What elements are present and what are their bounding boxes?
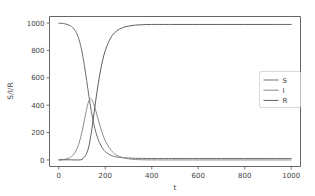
x-tick-label-600: 600 — [192, 172, 205, 180]
y-tick-label-800: 800 — [31, 47, 44, 55]
series-line-S — [59, 23, 291, 158]
y-axis-title: S/I/R — [6, 82, 15, 99]
legend-label-S: S — [283, 77, 288, 85]
y-tick-label-400: 400 — [31, 102, 44, 110]
chart-figure: 02004006008001000 02004006008001000 t S/… — [0, 0, 315, 196]
y-tick-label-600: 600 — [31, 74, 44, 82]
data-series-group — [59, 23, 291, 160]
x-tick-label-1000: 1000 — [282, 172, 300, 180]
x-axis-tick-labels: 02004006008001000 — [57, 172, 301, 180]
y-tick-label-1000: 1000 — [27, 20, 45, 28]
x-tick-label-400: 400 — [145, 172, 158, 180]
y-tick-label-0: 0 — [40, 157, 44, 165]
series-line-R — [59, 24, 291, 160]
legend-frame — [260, 72, 301, 108]
x-axis-title: t — [174, 183, 177, 192]
legend-label-I: I — [283, 87, 285, 95]
x-tick-label-200: 200 — [99, 172, 112, 180]
series-line-I — [59, 99, 291, 160]
y-tick-label-200: 200 — [31, 129, 44, 137]
sir-line-chart: 02004006008001000 02004006008001000 t S/… — [0, 0, 315, 196]
legend-label-R: R — [283, 97, 288, 105]
x-tick-label-800: 800 — [238, 172, 251, 180]
chart-legend: SIR — [260, 72, 301, 108]
y-axis-tick-labels: 02004006008001000 — [27, 20, 45, 165]
x-tick-label-0: 0 — [57, 172, 61, 180]
